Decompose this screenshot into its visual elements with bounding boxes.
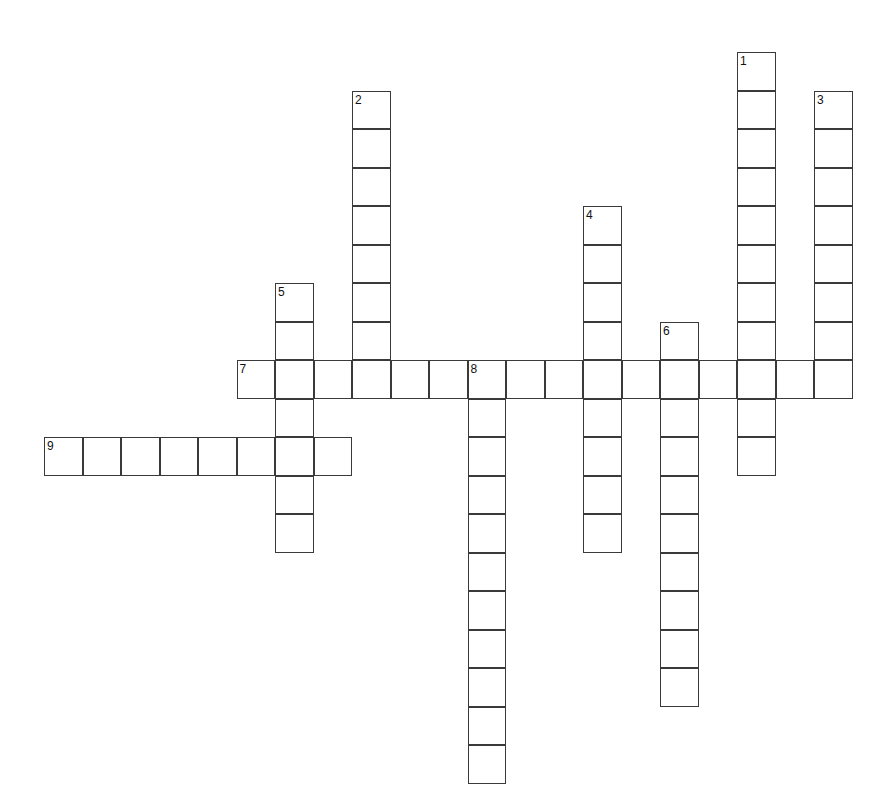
crossword-cell[interactable] — [814, 168, 853, 207]
crossword-cell[interactable] — [660, 476, 699, 515]
crossword-cell[interactable] — [275, 437, 314, 476]
crossword-cell[interactable] — [583, 283, 622, 322]
crossword-cell[interactable] — [468, 745, 507, 784]
crossword-cell[interactable] — [583, 437, 622, 476]
crossword-cell[interactable] — [737, 283, 776, 322]
crossword-cell[interactable] — [737, 129, 776, 168]
crossword-cell[interactable] — [660, 437, 699, 476]
crossword-cell[interactable] — [737, 91, 776, 130]
crossword-cell[interactable] — [160, 437, 199, 476]
crossword-cell[interactable] — [314, 360, 353, 399]
crossword-cell[interactable] — [275, 283, 314, 322]
crossword-cell[interactable] — [429, 360, 468, 399]
crossword-cell[interactable] — [737, 245, 776, 284]
crossword-cell[interactable] — [583, 476, 622, 515]
crossword-cell[interactable] — [583, 206, 622, 245]
crossword-cell[interactable] — [275, 360, 314, 399]
crossword-cell[interactable] — [275, 322, 314, 361]
crossword-cell[interactable] — [468, 437, 507, 476]
crossword-cell[interactable] — [44, 437, 83, 476]
crossword-cell[interactable] — [660, 360, 699, 399]
crossword-cell[interactable] — [737, 437, 776, 476]
crossword-cell[interactable] — [583, 360, 622, 399]
crossword-cell[interactable] — [545, 360, 584, 399]
crossword-cell[interactable] — [237, 360, 276, 399]
crossword-cell[interactable] — [814, 245, 853, 284]
crossword-cell[interactable] — [506, 360, 545, 399]
crossword-cell[interactable] — [660, 399, 699, 438]
crossword-cell[interactable] — [660, 514, 699, 553]
crossword-cell[interactable] — [737, 206, 776, 245]
crossword-cell[interactable] — [583, 322, 622, 361]
crossword-cell[interactable] — [814, 283, 853, 322]
crossword-cell[interactable] — [468, 630, 507, 669]
crossword-cell[interactable] — [660, 553, 699, 592]
crossword-cell[interactable] — [352, 283, 391, 322]
crossword-cell[interactable] — [583, 399, 622, 438]
crossword-cell[interactable] — [468, 399, 507, 438]
crossword-cell[interactable] — [468, 707, 507, 746]
crossword-cell[interactable] — [83, 437, 122, 476]
crossword-cell[interactable] — [776, 360, 815, 399]
crossword-cell[interactable] — [391, 360, 430, 399]
crossword-cell[interactable] — [737, 399, 776, 438]
crossword-cell[interactable] — [468, 360, 507, 399]
crossword-cell[interactable] — [660, 630, 699, 669]
crossword-cell[interactable] — [814, 360, 853, 399]
crossword-cell[interactable] — [352, 91, 391, 130]
crossword-cell[interactable] — [352, 206, 391, 245]
crossword-cell[interactable] — [198, 437, 237, 476]
crossword-cell[interactable] — [814, 91, 853, 130]
crossword-cell[interactable] — [660, 591, 699, 630]
crossword-cell[interactable] — [660, 668, 699, 707]
crossword-cell[interactable] — [352, 168, 391, 207]
crossword-cell[interactable] — [352, 245, 391, 284]
crossword-cell[interactable] — [468, 476, 507, 515]
crossword-cell[interactable] — [737, 322, 776, 361]
crossword-cell[interactable] — [468, 514, 507, 553]
crossword-grid[interactable]: 123456789 — [0, 0, 893, 801]
crossword-cell[interactable] — [699, 360, 738, 399]
crossword-cell[interactable] — [737, 168, 776, 207]
crossword-cell[interactable] — [275, 514, 314, 553]
crossword-cell[interactable] — [814, 129, 853, 168]
crossword-cell[interactable] — [468, 553, 507, 592]
crossword-cell[interactable] — [314, 437, 353, 476]
crossword-cell[interactable] — [468, 668, 507, 707]
crossword-cell[interactable] — [737, 360, 776, 399]
crossword-cell[interactable] — [583, 245, 622, 284]
crossword-cell[interactable] — [814, 206, 853, 245]
crossword-cell[interactable] — [814, 322, 853, 361]
crossword-cell[interactable] — [275, 399, 314, 438]
crossword-cell[interactable] — [352, 322, 391, 361]
crossword-cell[interactable] — [237, 437, 276, 476]
crossword-cell[interactable] — [121, 437, 160, 476]
crossword-cell[interactable] — [352, 360, 391, 399]
crossword-cell[interactable] — [583, 514, 622, 553]
crossword-cell[interactable] — [275, 476, 314, 515]
crossword-cell[interactable] — [352, 129, 391, 168]
crossword-cell[interactable] — [622, 360, 661, 399]
crossword-cell[interactable] — [468, 591, 507, 630]
crossword-cell[interactable] — [737, 52, 776, 91]
crossword-cell[interactable] — [660, 322, 699, 361]
